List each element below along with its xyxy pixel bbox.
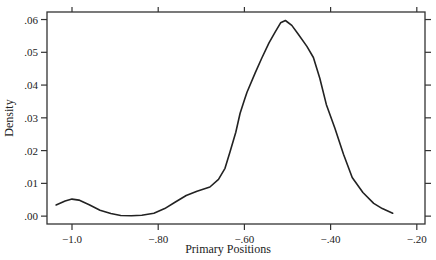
- y-tick-label: .06: [24, 14, 38, 26]
- x-tick-label: −.80: [148, 233, 168, 245]
- x-tick-label: −1.0: [62, 233, 82, 245]
- y-tick-label: .04: [24, 79, 38, 91]
- y-tick-label: .02: [24, 145, 38, 157]
- density-curve: [56, 21, 393, 216]
- x-tick-label: −.20: [407, 233, 427, 245]
- x-axis-title: Primary Positions: [185, 242, 271, 256]
- x-axis-top-ticks: [72, 7, 417, 12]
- y-tick-label: .03: [24, 112, 38, 124]
- plot-frame: [47, 12, 425, 224]
- y-tick-label: .05: [24, 46, 38, 58]
- y-axis: .00.01.02.03.04.05.06: [24, 14, 47, 223]
- y-tick-label: .00: [24, 210, 38, 222]
- y-axis-right-ticks: [425, 20, 431, 217]
- y-axis-title: Density: [2, 99, 16, 136]
- density-chart: −1.0−.80−.60−.40−.20 .00.01.02.03.04.05.…: [0, 0, 436, 260]
- x-tick-label: −.40: [321, 233, 341, 245]
- y-tick-label: .01: [24, 177, 38, 189]
